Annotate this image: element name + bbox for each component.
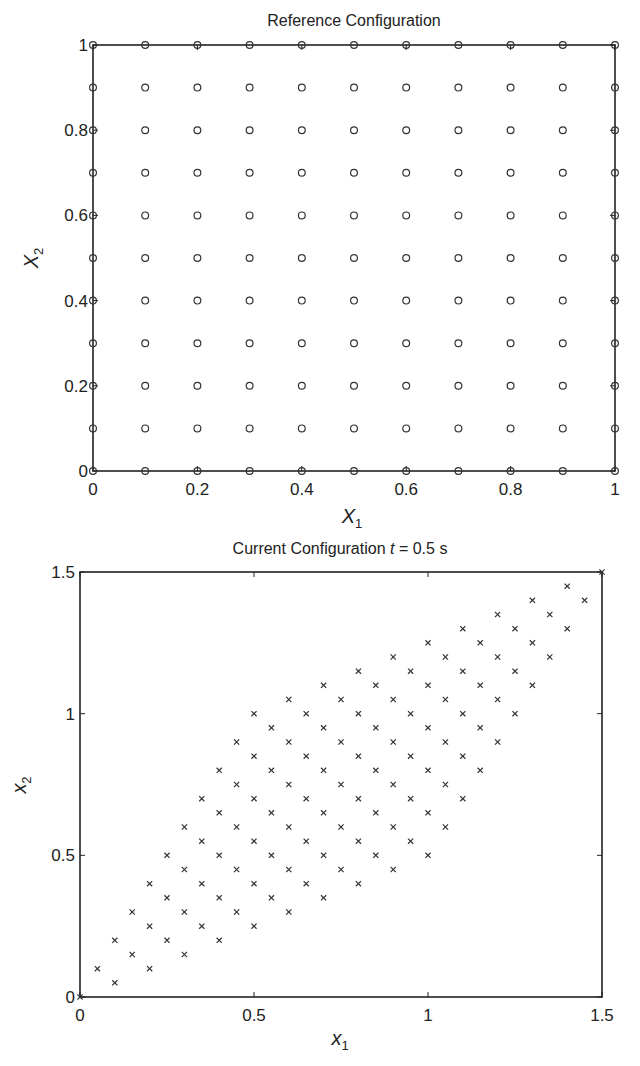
circle-marker (142, 212, 149, 219)
x-marker (217, 895, 222, 900)
x-marker (234, 867, 239, 872)
x-marker (565, 626, 570, 631)
circle-marker (194, 340, 201, 347)
circle-marker (507, 425, 514, 432)
circle-marker (559, 169, 566, 176)
x-marker (373, 768, 378, 773)
x-marker (425, 810, 430, 815)
x-marker (304, 711, 309, 716)
x-marker (286, 739, 291, 744)
x-marker (251, 881, 256, 886)
x-tick-label: 0 (75, 1006, 84, 1025)
x-marker (147, 881, 152, 886)
x-marker (425, 853, 430, 858)
x-marker (408, 754, 413, 759)
circle-marker (455, 382, 462, 389)
x-tick-label: 0.5 (242, 1006, 266, 1025)
x-marker (443, 782, 448, 787)
circle-marker (455, 255, 462, 262)
figure: Reference Configuration 00.20.40.60.81 0… (0, 0, 640, 1066)
circle-marker (403, 382, 410, 389)
x-marker (356, 711, 361, 716)
circle-marker (455, 212, 462, 219)
y-tick-label: 1 (66, 705, 75, 724)
x-marker (338, 824, 343, 829)
x-marker (269, 810, 274, 815)
x-marker (182, 952, 187, 957)
circle-marker (351, 169, 358, 176)
x-marker (112, 980, 117, 985)
circle-marker (507, 127, 514, 134)
y-tick-label: 0.8 (64, 121, 88, 140)
x-marker (408, 711, 413, 716)
y-tick-label: 0 (79, 462, 88, 481)
x-marker (147, 966, 152, 971)
circle-marker (298, 212, 305, 219)
x-marker (182, 867, 187, 872)
x-marker (425, 640, 430, 645)
x-marker (234, 909, 239, 914)
circle-marker (298, 255, 305, 262)
circle-marker (455, 425, 462, 432)
current-grid-points (77, 569, 604, 999)
x-marker (356, 754, 361, 759)
reference-configuration-plot: Reference Configuration 00.20.40.60.81 0… (20, 12, 620, 531)
x-marker (338, 739, 343, 744)
circle-marker (559, 297, 566, 304)
x-marker (582, 598, 587, 603)
circle-marker (194, 297, 201, 304)
x-marker (304, 754, 309, 759)
reference-plot-title: Reference Configuration (267, 12, 440, 29)
x-marker (443, 697, 448, 702)
circle-marker (507, 84, 514, 91)
x-marker (321, 853, 326, 858)
x-tick-label: 0.8 (499, 480, 523, 499)
x-marker (495, 654, 500, 659)
circle-marker (559, 255, 566, 262)
x-tick-label: 0.4 (290, 480, 314, 499)
x-marker (373, 683, 378, 688)
x-tick-label: 1.5 (590, 1006, 614, 1025)
x-marker (373, 810, 378, 815)
x-marker (478, 725, 483, 730)
x-marker (425, 683, 430, 688)
circle-marker (298, 169, 305, 176)
x-marker (269, 853, 274, 858)
x-marker (495, 612, 500, 617)
circle-marker (142, 340, 149, 347)
x-marker (512, 711, 517, 716)
circle-marker (559, 382, 566, 389)
x-marker (460, 711, 465, 716)
x-marker (478, 683, 483, 688)
x-marker (478, 768, 483, 773)
circle-marker (403, 340, 410, 347)
circle-marker (403, 169, 410, 176)
y-tick-label: 0 (66, 988, 75, 1007)
circle-marker (455, 340, 462, 347)
x-marker (234, 782, 239, 787)
x-marker (373, 725, 378, 730)
x-tick-label: 1 (610, 480, 619, 499)
x-tick-label: 0.6 (394, 480, 418, 499)
current-configuration-plot: Current Configuration t = 0.5 s 00.511.5… (8, 540, 614, 1053)
x-marker (565, 584, 570, 589)
circle-marker (298, 84, 305, 91)
x-marker (321, 725, 326, 730)
circle-marker (142, 425, 149, 432)
circle-marker (403, 297, 410, 304)
x-marker (199, 796, 204, 801)
x-marker (130, 909, 135, 914)
x-marker (286, 909, 291, 914)
y-tick-label: 0.6 (64, 206, 88, 225)
circle-marker (142, 84, 149, 91)
circle-marker (351, 340, 358, 347)
x-marker (460, 754, 465, 759)
reference-y-ticks: 00.20.40.60.81 (64, 36, 615, 481)
x-marker (251, 924, 256, 929)
x-tick-label: 0 (88, 480, 97, 499)
x-tick-label: 0.2 (186, 480, 210, 499)
x-marker (495, 697, 500, 702)
x-marker (234, 739, 239, 744)
circle-marker (142, 255, 149, 262)
circle-marker (246, 169, 253, 176)
